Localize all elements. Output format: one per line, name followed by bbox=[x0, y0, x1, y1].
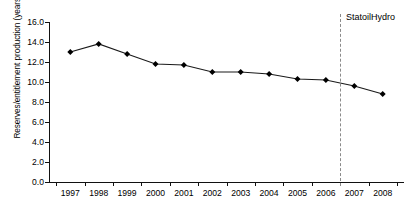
data-point-marker bbox=[295, 76, 301, 82]
y-tick-label: 16.0 bbox=[27, 17, 44, 27]
x-tick bbox=[170, 182, 171, 186]
x-tick bbox=[283, 182, 284, 186]
data-point-marker bbox=[209, 69, 215, 75]
x-tick bbox=[312, 182, 313, 186]
y-tick-label: 10.0 bbox=[27, 77, 44, 87]
data-series-line bbox=[49, 22, 404, 182]
data-point-marker bbox=[351, 83, 357, 89]
y-tick-label: 2.0 bbox=[32, 157, 44, 167]
plot-area: 0.02.04.06.08.010.012.014.016.0 19971998… bbox=[49, 22, 404, 182]
x-tick-label: 2001 bbox=[174, 188, 193, 198]
x-tick-label: 2000 bbox=[146, 188, 165, 198]
y-tick-label: 12.0 bbox=[27, 57, 44, 67]
x-tick-label: 2003 bbox=[231, 188, 250, 198]
x-tick bbox=[113, 182, 114, 186]
chart-root: Reserves/entitlement production (years) … bbox=[0, 0, 408, 210]
x-tick-label: 1999 bbox=[118, 188, 137, 198]
y-tick-label: 0.0 bbox=[32, 177, 44, 187]
x-tick-label: 1997 bbox=[61, 188, 80, 198]
data-point-marker bbox=[266, 71, 272, 77]
data-point-marker bbox=[67, 49, 73, 55]
x-tick-label: 1998 bbox=[89, 188, 108, 198]
x-tick bbox=[198, 182, 199, 186]
statoilhydro-divider-line bbox=[340, 14, 341, 186]
x-tick bbox=[255, 182, 256, 186]
y-tick-label: 14.0 bbox=[27, 37, 44, 47]
x-tick-label: 2007 bbox=[345, 188, 364, 198]
y-tick-label: 8.0 bbox=[32, 97, 44, 107]
data-point-marker bbox=[153, 61, 159, 67]
x-tick bbox=[227, 182, 228, 186]
x-tick-label: 2002 bbox=[203, 188, 222, 198]
data-point-marker bbox=[96, 41, 102, 47]
x-tick-label: 2004 bbox=[260, 188, 279, 198]
x-tick-label: 2005 bbox=[288, 188, 307, 198]
x-tick-label: 2008 bbox=[373, 188, 392, 198]
y-axis-title: Reserves/entitlement production (years) bbox=[12, 0, 22, 162]
y-tick bbox=[45, 182, 49, 183]
x-tick bbox=[85, 182, 86, 186]
data-point-marker bbox=[380, 91, 386, 97]
y-tick-label: 6.0 bbox=[32, 117, 44, 127]
x-tick bbox=[141, 182, 142, 186]
data-point-marker bbox=[323, 77, 329, 83]
x-tick bbox=[56, 182, 57, 186]
x-tick bbox=[397, 182, 398, 186]
x-tick bbox=[369, 182, 370, 186]
y-tick-label: 4.0 bbox=[32, 137, 44, 147]
statoilhydro-divider-label: StatoilHydro bbox=[346, 12, 395, 22]
data-point-marker bbox=[181, 62, 187, 68]
x-tick-label: 2006 bbox=[316, 188, 335, 198]
data-point-marker bbox=[238, 69, 244, 75]
data-point-marker bbox=[124, 51, 130, 57]
